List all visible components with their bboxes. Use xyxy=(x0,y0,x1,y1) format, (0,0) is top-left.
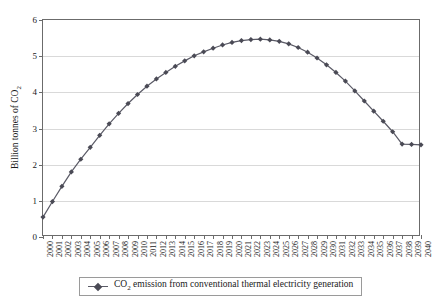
chart-container: Billion tonnes of CO2 0123456 2000200120… xyxy=(0,0,443,304)
x-tick-mark xyxy=(421,235,422,239)
x-tick-label-2020: 2020 xyxy=(236,241,244,257)
data-point-2017 xyxy=(201,49,206,54)
series-polyline xyxy=(43,39,421,217)
y-axis-title-subscript: 2 xyxy=(15,86,23,90)
x-tick-label-2010: 2010 xyxy=(141,241,149,257)
legend-marker-icon xyxy=(88,282,108,292)
y-tick-label: 6 xyxy=(33,16,38,25)
x-tick-label-2002: 2002 xyxy=(65,241,73,257)
x-tick-label-2009: 2009 xyxy=(132,241,140,257)
y-axis-title-text: Billion tonnes of CO xyxy=(10,90,20,169)
x-tick-label-2028: 2028 xyxy=(311,241,319,257)
y-axis-title: Billion tonnes of CO2 xyxy=(8,19,22,236)
x-tick-label-2021: 2021 xyxy=(245,241,253,257)
data-point-2040 xyxy=(418,142,423,147)
x-tick-label-2001: 2001 xyxy=(56,241,64,257)
x-tick-label-2033: 2033 xyxy=(358,241,366,257)
x-tick-label-2017: 2017 xyxy=(207,241,215,257)
x-tick-label-2019: 2019 xyxy=(226,241,234,257)
x-tick-label-2037: 2037 xyxy=(396,241,404,257)
x-tick-label-2015: 2015 xyxy=(188,241,196,257)
x-tick-label-2034: 2034 xyxy=(368,241,376,257)
x-tick-label-2031: 2031 xyxy=(339,241,347,257)
data-point-2000 xyxy=(40,215,45,220)
x-tick-label-2018: 2018 xyxy=(217,241,225,257)
x-tick-label-2014: 2014 xyxy=(179,241,187,257)
series-line-co2-emission xyxy=(43,20,421,237)
data-point-2026 xyxy=(286,41,291,46)
x-tick-label-2040: 2040 xyxy=(425,241,433,257)
data-point-2025 xyxy=(277,39,282,44)
x-tick-label-2032: 2032 xyxy=(349,241,357,257)
x-tick-label-2008: 2008 xyxy=(122,241,130,257)
x-tick-label-2013: 2013 xyxy=(169,241,177,257)
data-point-2019 xyxy=(220,42,225,47)
chart-legend: CO2 emission from conventional thermal e… xyxy=(79,277,362,296)
data-point-2024 xyxy=(267,37,272,42)
y-tick-label: 0 xyxy=(33,233,38,242)
x-tick-label-2024: 2024 xyxy=(273,241,281,257)
x-tick-label-2012: 2012 xyxy=(160,241,168,257)
data-point-2018 xyxy=(211,46,216,51)
x-tick-label-2000: 2000 xyxy=(47,241,55,257)
x-tick-label-2011: 2011 xyxy=(150,241,158,257)
y-tick-label: 5 xyxy=(33,52,38,61)
y-tick-label: 3 xyxy=(33,124,38,133)
data-point-2016 xyxy=(192,53,197,58)
x-tick-label-2004: 2004 xyxy=(84,241,92,257)
data-point-2023 xyxy=(258,37,263,42)
x-tick-label-2029: 2029 xyxy=(321,241,329,257)
x-tick-label-2036: 2036 xyxy=(387,241,395,257)
data-point-2022 xyxy=(248,37,253,42)
x-tick-label-2025: 2025 xyxy=(283,241,291,257)
legend-label-text-before: CO xyxy=(114,279,127,289)
x-tick-label-2022: 2022 xyxy=(254,241,262,257)
y-tick-label: 1 xyxy=(33,196,38,205)
legend-label-text-after: emission from conventional thermal elect… xyxy=(131,279,354,289)
x-tick-label-2039: 2039 xyxy=(415,241,423,257)
data-point-2028 xyxy=(305,50,310,55)
x-tick-label-2027: 2027 xyxy=(302,241,310,257)
y-tick-label: 4 xyxy=(33,88,38,97)
x-tick-label-2023: 2023 xyxy=(264,241,272,257)
x-tick-label-2007: 2007 xyxy=(113,241,121,257)
legend-label-co2-emission: CO2 emission from conventional thermal e… xyxy=(114,279,353,294)
data-point-2015 xyxy=(182,58,187,63)
x-tick-label-2003: 2003 xyxy=(75,241,83,257)
x-tick-label-2016: 2016 xyxy=(198,241,206,257)
x-tick-label-2006: 2006 xyxy=(103,241,111,257)
data-point-2039 xyxy=(409,142,414,147)
x-tick-label-2038: 2038 xyxy=(406,241,414,257)
y-tick-label: 2 xyxy=(33,160,38,169)
plot-area: 0123456 20002001200220032004200520062007… xyxy=(42,19,420,236)
data-point-2021 xyxy=(239,38,244,43)
x-tick-label-2026: 2026 xyxy=(292,241,300,257)
data-point-2020 xyxy=(229,40,234,45)
x-tick-label-2035: 2035 xyxy=(377,241,385,257)
x-tick-label-2030: 2030 xyxy=(330,241,338,257)
x-tick-label-2005: 2005 xyxy=(94,241,102,257)
data-point-2027 xyxy=(296,45,301,50)
